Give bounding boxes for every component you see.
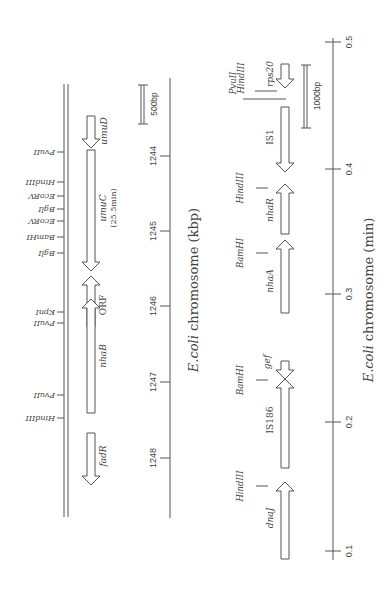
gene-label-nhab: nhaB (98, 344, 108, 368)
site-label-pvuii-2: PvuII (33, 319, 56, 328)
scale-bar-label: 500bp (149, 92, 159, 116)
kbp-axis: 1244 1245 1246 1247 1248 E.coli chromoso… (148, 78, 201, 518)
right-panel: PvuII HindIII HindIII BamHI BamHI HindII… (228, 36, 376, 560)
restriction-site-labels: PvuII HindIII EcoRV BglI EcoRV BamHI Bgl… (25, 148, 56, 423)
min-tick-0.2: 0.2 (344, 416, 354, 429)
gene-label-fadr: fadR (98, 445, 108, 467)
site-label-ecorv-1: EcoRV (27, 192, 56, 201)
gene-arrow-gef (276, 361, 294, 379)
gene-arrow-is1 (276, 107, 294, 172)
genetic-map-figure: PvuII HindIII EcoRV BglI EcoRV BamHI Bgl… (0, 0, 387, 604)
scale-bar-500bp: 500bp (138, 85, 159, 124)
kbp-tick-1244: 1244 (148, 146, 158, 166)
site-label-hindiii-dnaj: HindIII (235, 470, 245, 503)
gene-label-orf: ORF (98, 295, 108, 315)
restriction-site-ticks (57, 152, 64, 418)
gene-label-umuc-position: (25.5min) (109, 188, 118, 227)
kbp-tick-1248: 1248 (148, 448, 158, 468)
min-tick-0.5: 0.5 (344, 36, 354, 49)
gene-label-nhaa: nhaA (265, 269, 275, 293)
site-label-hindiii-nhar: HindIII (235, 172, 245, 205)
kbp-tick-1246: 1246 (148, 296, 158, 316)
site-label-pvuii-3: PvuII (33, 391, 56, 400)
site-label-hindiii-top: HindIII (236, 62, 246, 95)
min-tick-0.3: 0.3 (344, 288, 354, 301)
gene-label-is1: IS1 (265, 129, 275, 144)
site-label-kpni: KpnI (35, 308, 56, 317)
gene-arrow-dnaj (276, 482, 294, 559)
site-label-ecorv-2: EcoRV (27, 217, 56, 226)
site-label-bamhi-is186: BamHI (235, 364, 245, 396)
gene-arrow-rps20 (276, 64, 294, 88)
site-label-hindiii-1: HindIII (25, 178, 56, 187)
gene-label-dnaj: dnaJ (265, 506, 275, 528)
min-tick-0.4: 0.4 (344, 163, 354, 176)
gene-label-is186: IS186 (265, 406, 275, 433)
gene-arrow-nhar (276, 184, 294, 234)
gene-arrow-umud (82, 116, 100, 148)
gene-label-nhar: nhaR (265, 198, 275, 222)
site-label-pvuii-1: PvuII (33, 148, 56, 157)
min-axis: 0.5 0.4 0.3 0.2 0.1 E.coli chromosome (m… (325, 36, 376, 560)
kbp-axis-title: E.coli chromosome (kbp) (186, 208, 201, 373)
gene-label-rps20: rps20 (265, 61, 275, 87)
scale-bar-1000bp: 1000bp (301, 65, 322, 128)
site-label-bamhi-nhaa: BamHI (235, 237, 245, 269)
site-label-bgli-1: BglI (37, 205, 56, 214)
gene-label-gef: gef (262, 353, 272, 369)
scale-bar-label-right: 1000bp (312, 82, 322, 111)
site-label-bgli-2: BglI (37, 249, 56, 258)
gene-label-umud: umuD (99, 117, 109, 144)
site-label-hindiii-2: HindIII (25, 414, 56, 423)
gene-arrow-nhaa (276, 240, 294, 313)
gene-label-umuc: umuC (98, 194, 108, 221)
min-axis-title: E.coli chromosome (min) (361, 218, 376, 384)
gene-arrow-is186 (276, 379, 294, 468)
kbp-tick-1245: 1245 (148, 221, 158, 241)
site-label-bamhi: BamHI (26, 233, 56, 242)
min-tick-0.1: 0.1 (344, 545, 354, 558)
kbp-tick-1247: 1247 (148, 372, 158, 392)
left-panel: PvuII HindIII EcoRV BglI EcoRV BamHI Bgl… (25, 78, 201, 518)
